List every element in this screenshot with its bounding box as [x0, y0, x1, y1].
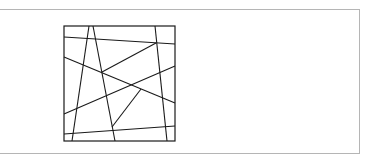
segment-d2 — [102, 43, 156, 72]
segment-v1 — [72, 26, 89, 141]
line-diagram — [0, 0, 378, 162]
segment-h1 — [64, 37, 175, 44]
line-segments — [64, 26, 175, 141]
segment-h2 — [64, 126, 175, 134]
segment-v2 — [93, 26, 115, 141]
segment-d3 — [64, 66, 175, 114]
segment-d4 — [112, 89, 141, 127]
